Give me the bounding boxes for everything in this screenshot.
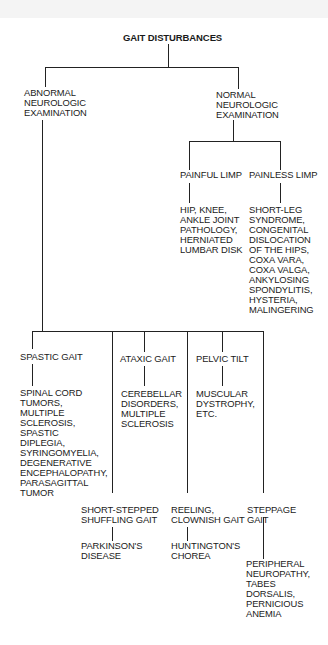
- node-abnormal-exam: ABNORMAL NEUROLOGIC EXAMINATION: [24, 88, 87, 118]
- connector: [280, 183, 281, 203]
- connector: [168, 44, 169, 68]
- node-shuffling-causes: PARKINSON'S DISEASE: [81, 541, 142, 561]
- connector: [32, 331, 33, 349]
- connector: [32, 331, 264, 332]
- node-ataxic-gait: ATAXIC GAIT: [120, 354, 176, 364]
- connector: [263, 517, 264, 559]
- connector: [144, 366, 145, 386]
- connector: [189, 183, 190, 203]
- node-ataxic-causes: CEREBELLAR DISORDERS, MULTIPLE SCLEROSIS: [121, 389, 182, 429]
- connector: [112, 527, 113, 541]
- node-spastic-causes: SPINAL CORD TUMORS, MULTIPLE SCLEROSIS, …: [20, 388, 108, 498]
- connector: [45, 67, 239, 68]
- connector: [32, 364, 33, 386]
- connector: [45, 67, 46, 87]
- node-painful-limp: PAINFUL LIMP: [180, 170, 242, 180]
- node-spastic-gait: SPASTIC GAIT: [20, 352, 83, 362]
- connector: [112, 331, 113, 493]
- node-painless-causes: SHORT-LEG SYNDROME, CONGENITAL DISLOCATI…: [249, 205, 314, 315]
- root-title: GAIT DISTURBANCES: [123, 33, 222, 43]
- scan-top-band: [0, 0, 328, 18]
- connector: [189, 141, 190, 170]
- node-reeling-gait: REELING, CLOWNISH GAIT: [171, 505, 245, 525]
- connector: [187, 527, 188, 541]
- connector: [187, 331, 188, 493]
- connector: [238, 67, 239, 89]
- node-painful-causes: HIP, KNEE, ANKLE JOINT PATHOLOGY, HERNIA…: [180, 205, 242, 255]
- connector: [263, 331, 264, 493]
- connector: [233, 120, 234, 142]
- node-pelvic-causes: MUSCULAR DYSTROPHY, ETC.: [196, 389, 255, 419]
- node-shuffling-gait: SHORT-STEPPED SHUFFLING GAIT: [81, 505, 159, 525]
- connector: [222, 331, 223, 352]
- connector: [222, 366, 223, 386]
- connector: [42, 120, 43, 332]
- connector: [144, 331, 145, 352]
- connector: [280, 141, 281, 170]
- node-pelvic-tilt: PELVIC TILT: [196, 354, 249, 364]
- node-reeling-causes: HUNTINGTON'S CHOREA: [171, 541, 240, 561]
- node-painless-limp: PAINLESS LIMP: [249, 170, 317, 180]
- node-steppage-gait: STEPPAGE GAIT: [247, 505, 296, 525]
- node-normal-exam: NORMAL NEUROLOGIC EXAMINATION: [216, 90, 279, 120]
- connector: [189, 141, 281, 142]
- node-steppage-causes: PERIPHERAL NEUROPATHY, TABES DORSALIS, P…: [246, 559, 310, 619]
